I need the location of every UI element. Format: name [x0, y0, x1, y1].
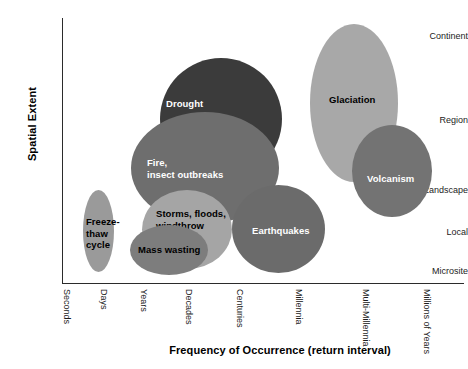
x-axis-line — [62, 283, 464, 284]
bubble-volcanism — [352, 125, 432, 217]
x-tick-label: Seconds — [62, 289, 72, 324]
bubble-label-mass-wasting: Mass wasting — [138, 244, 200, 256]
bubble-label-drought: Drought — [166, 98, 203, 110]
bubble-label-freeze-thaw-cycle: Freeze- thaw cycle — [86, 216, 120, 251]
x-tick-label: Millennia — [294, 289, 304, 325]
disturbance-regime-chart: Spatial Extent ContinentRegionLandscapeL… — [0, 0, 468, 369]
bubble-label-volcanism: Volcanism — [367, 173, 414, 185]
x-tick-label: Decades — [184, 289, 194, 325]
x-tick-label: Days — [99, 289, 109, 310]
y-axis-title: Spatial Extent — [26, 64, 38, 184]
bubble-label-fire-insect-outbreaks: Fire, insect outbreaks — [147, 157, 223, 180]
bubble-label-earthquakes: Earthquakes — [252, 225, 310, 237]
x-tick-label: Multi-Millennia — [361, 289, 371, 347]
x-tick-label: Years — [139, 289, 149, 312]
x-tick-label: Centuries — [235, 289, 245, 328]
bubble-label-glaciation: Glaciation — [329, 94, 375, 106]
plot-area: DroughtGlaciationVolcanismFire, insect o… — [63, 18, 464, 283]
x-axis-title: Frequency of Occurrence (return interval… — [120, 344, 440, 356]
